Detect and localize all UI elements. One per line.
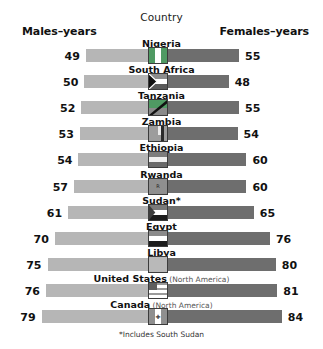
male-bar-segment bbox=[42, 310, 158, 323]
male-value: 53 bbox=[44, 128, 74, 141]
male-value: 70 bbox=[19, 233, 49, 246]
chart-row: RwandaR5760 bbox=[0, 169, 323, 195]
nigeria-flag bbox=[148, 47, 168, 64]
chart-row: Tanzania5255 bbox=[0, 90, 323, 116]
female-bar-segment bbox=[158, 180, 246, 193]
female-value: 48 bbox=[235, 76, 265, 89]
male-bar-segment bbox=[81, 101, 158, 114]
female-bar-segment bbox=[158, 153, 246, 166]
country-name: Canada bbox=[110, 299, 150, 310]
female-bar-segment bbox=[158, 101, 239, 114]
male-value: 57 bbox=[38, 181, 68, 194]
male-value: 49 bbox=[50, 50, 80, 63]
south-africa-flag bbox=[148, 73, 168, 90]
male-bar-segment bbox=[84, 75, 158, 88]
life-expectancy-chart: Country Males–years Females–years Nigeri… bbox=[0, 0, 323, 349]
chart-row: Libya7580 bbox=[0, 247, 323, 273]
sudan-flag bbox=[148, 204, 168, 221]
female-value: 76 bbox=[276, 233, 306, 246]
female-value: 80 bbox=[282, 259, 312, 272]
chart-footnote: *Includes South Sudan bbox=[0, 330, 323, 339]
female-bar-segment bbox=[158, 75, 229, 88]
male-bar-segment bbox=[74, 180, 158, 193]
chart-row: United States (North America)7681 bbox=[0, 273, 323, 299]
female-bar-segment bbox=[158, 258, 276, 271]
ethiopia-flag bbox=[148, 151, 168, 168]
female-bar-segment bbox=[158, 284, 277, 297]
libya-flag bbox=[148, 256, 168, 273]
chart-row: Egypt7076 bbox=[0, 221, 323, 247]
zambia-flag bbox=[148, 125, 168, 142]
male-bar-segment bbox=[68, 206, 158, 219]
male-bar-segment bbox=[80, 127, 158, 140]
male-value: 79 bbox=[6, 311, 36, 324]
chart-header-females: Females–years bbox=[220, 25, 309, 38]
male-bar-segment bbox=[48, 258, 158, 271]
female-value: 60 bbox=[252, 154, 282, 167]
tanzania-flag bbox=[148, 99, 168, 116]
chart-row: Zambia5354 bbox=[0, 116, 323, 142]
female-bar-segment bbox=[158, 206, 254, 219]
male-value: 52 bbox=[45, 102, 75, 115]
female-value: 55 bbox=[245, 102, 275, 115]
rwanda-flag: R bbox=[148, 178, 168, 195]
male-bar-segment bbox=[55, 232, 158, 245]
canada-flag: ✚ bbox=[148, 308, 168, 325]
female-value: 65 bbox=[260, 207, 290, 220]
male-bar-segment bbox=[46, 284, 158, 297]
chart-header-males: Males–years bbox=[22, 25, 97, 38]
chart-header-country: Country bbox=[0, 11, 323, 23]
male-value: 76 bbox=[10, 285, 40, 298]
female-value: 54 bbox=[244, 128, 274, 141]
male-value: 50 bbox=[48, 76, 78, 89]
female-value: 81 bbox=[283, 285, 313, 298]
male-bar-segment bbox=[78, 153, 158, 166]
chart-row: South Africa5048 bbox=[0, 64, 323, 90]
female-bar-segment bbox=[158, 310, 282, 323]
country-region: (North America) bbox=[167, 275, 230, 284]
chart-row: Ethiopia5460 bbox=[0, 142, 323, 168]
female-bar-segment bbox=[158, 49, 239, 62]
male-value: 54 bbox=[42, 154, 72, 167]
female-value: 60 bbox=[252, 181, 282, 194]
egypt-flag bbox=[148, 230, 168, 247]
chart-row: Sudan*6165 bbox=[0, 195, 323, 221]
chart-row: Canada (North America)✚7984 bbox=[0, 299, 323, 325]
female-bar-segment bbox=[158, 127, 238, 140]
female-value: 55 bbox=[245, 50, 275, 63]
chart-row: Nigeria4955 bbox=[0, 38, 323, 64]
female-value: 84 bbox=[288, 311, 318, 324]
female-bar-segment bbox=[158, 232, 270, 245]
male-value: 75 bbox=[12, 259, 42, 272]
male-value: 61 bbox=[32, 207, 62, 220]
united-states-flag bbox=[148, 282, 168, 299]
